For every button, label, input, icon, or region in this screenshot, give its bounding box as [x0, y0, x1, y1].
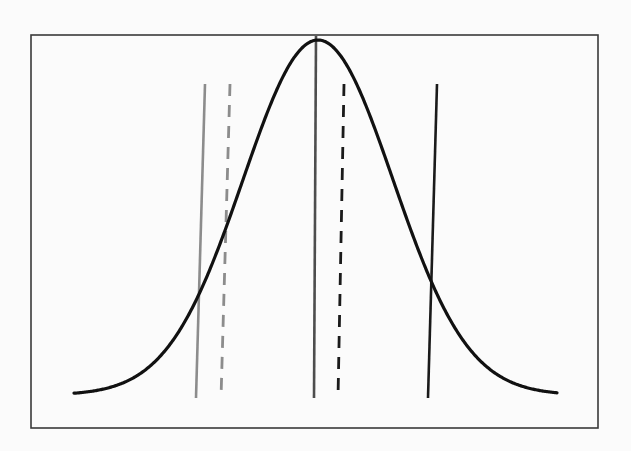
normal-distribution-diagram [0, 0, 631, 451]
diagram-stage [0, 0, 631, 451]
black-dashed-line [338, 84, 344, 398]
gray-solid-line [196, 84, 205, 398]
center-solid-line [314, 36, 316, 398]
black-solid-line [428, 84, 437, 398]
reference-lines [196, 36, 437, 398]
